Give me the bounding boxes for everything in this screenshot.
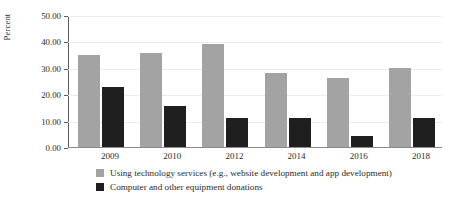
bar[interactable] — [226, 118, 248, 147]
y-tick-mark — [64, 16, 68, 17]
bar-group: 2009 — [69, 16, 131, 147]
x-tick-label: 2018 — [390, 151, 452, 161]
bar-group: 2018 — [380, 16, 442, 147]
bar[interactable] — [289, 118, 311, 147]
legend-item-0[interactable]: Using technology services (e.g., website… — [96, 166, 456, 180]
bar[interactable] — [327, 78, 349, 147]
bar[interactable] — [102, 87, 124, 147]
bar[interactable] — [78, 55, 100, 147]
y-tick-mark — [64, 42, 68, 43]
y-tick-label: 20.00 — [41, 90, 61, 100]
bar-group: 2016 — [318, 16, 380, 147]
legend-swatch-icon — [96, 169, 104, 177]
bar[interactable] — [265, 73, 287, 147]
legend-item-label: Computer and other equipment donations — [110, 182, 263, 192]
x-tick-label: 2012 — [203, 151, 265, 161]
bar[interactable] — [202, 44, 224, 147]
legend-item-label: Using technology services (e.g., website… — [110, 168, 392, 178]
bar[interactable] — [413, 118, 435, 147]
y-tick-mark — [64, 95, 68, 96]
bar-group: 2012 — [193, 16, 255, 147]
y-tick-mark — [64, 122, 68, 123]
y-tick-mark — [64, 148, 68, 149]
y-axis-title: Percent — [2, 0, 18, 62]
bar[interactable] — [140, 53, 162, 147]
plot-area: 0.0010.0020.0030.0040.0050.00 2009201020… — [68, 16, 442, 148]
y-tick-label: 0.00 — [46, 143, 61, 153]
x-tick-label: 2014 — [266, 151, 328, 161]
bar-groups: 200920102012201420162018 — [69, 16, 442, 147]
x-tick-label: 2009 — [79, 151, 141, 161]
y-tick-label: 40.00 — [41, 37, 61, 47]
y-tick-mark — [64, 69, 68, 70]
x-tick-label: 2010 — [141, 151, 203, 161]
bar[interactable] — [164, 106, 186, 147]
bar[interactable] — [389, 68, 411, 147]
legend-swatch-icon — [96, 183, 104, 191]
y-tick-label: 50.00 — [41, 11, 61, 21]
legend-item-1[interactable]: Computer and other equipment donations — [96, 180, 456, 194]
bar-group: 2014 — [256, 16, 318, 147]
bar-chart-figure: Percent 0.0010.0020.0030.0040.0050.00 20… — [0, 0, 462, 202]
chart-legend: Using technology services (e.g., website… — [96, 166, 456, 194]
bar[interactable] — [351, 136, 373, 147]
x-tick-label: 2016 — [328, 151, 390, 161]
x-axis-line — [68, 147, 442, 148]
y-tick-label: 10.00 — [41, 117, 61, 127]
y-tick-label: 30.00 — [41, 64, 61, 74]
bar-group: 2010 — [131, 16, 193, 147]
